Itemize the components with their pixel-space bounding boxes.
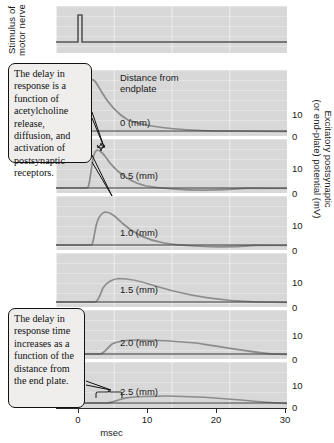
panel-distance-1_5 xyxy=(56,253,287,307)
x-axis-line xyxy=(56,408,287,409)
panel-stimulus xyxy=(56,6,287,53)
ytick-0-panel-2_0: 0 xyxy=(292,354,297,365)
ytick-10-panel-0_5: 10 xyxy=(292,163,303,174)
panel-distance-1_0 xyxy=(56,196,287,250)
distance-label-2_5: 2.5 (mm) xyxy=(120,386,158,397)
ytick-10-panel-0: 10 xyxy=(292,109,303,120)
ytick-10-panel-1_5: 10 xyxy=(292,277,303,288)
epp-trace-2_0mm xyxy=(56,310,287,359)
response-axis-label: Excitatory postsynaptic (or end-plate) p… xyxy=(312,64,334,254)
ytick-10-panel-1_0: 10 xyxy=(292,220,303,231)
distance-label-0_5: 0.5 (mm) xyxy=(120,170,158,181)
xtick-mark-30 xyxy=(285,409,286,413)
panel-distance-2_0 xyxy=(56,310,287,359)
column-header: Distance from endplate xyxy=(120,72,179,94)
ytick-0-panel-2_5: 0 xyxy=(292,402,297,413)
xtick-label-20: 20 xyxy=(211,414,222,425)
epp-trace-1_0mm xyxy=(56,196,287,250)
xtick-label-30: 30 xyxy=(280,414,291,425)
x-axis-label: msec xyxy=(0,427,331,438)
ytick-0-panel-0_5: 0 xyxy=(292,188,297,199)
ytick-0-panel-1_0: 0 xyxy=(292,245,297,256)
xtick-label-0: 0 xyxy=(75,414,80,425)
distance-label-0: 0 (mm) xyxy=(120,117,150,128)
xtick-mark-0 xyxy=(78,409,79,413)
distance-label-1_5: 1.5 (mm) xyxy=(120,284,158,295)
distance-label-2_0: 2.0 (mm) xyxy=(120,337,158,348)
ytick-10-panel-2_5: 10 xyxy=(292,380,303,391)
xtick-mark-20 xyxy=(216,409,217,413)
epp-trace-2_5mm xyxy=(56,362,287,408)
xtick-label-10: 10 xyxy=(142,414,153,425)
callout-delay-distance: The delay in response time increases as … xyxy=(8,308,85,408)
x-axis-label-text: msec xyxy=(100,427,123,438)
ytick-0-panel-0: 0 xyxy=(292,131,297,142)
distance-label-1_0: 1.0 (mm) xyxy=(120,227,158,238)
stimulus-trace xyxy=(56,6,287,53)
stimulus-axis-label: Stimulus of motor nerve xyxy=(0,0,45,60)
callout-delay-cause: The delay in response is a function of a… xyxy=(8,63,92,163)
ytick-0-panel-1_5: 0 xyxy=(292,302,297,313)
xtick-mark-10 xyxy=(147,409,148,413)
epp-trace-1_5mm xyxy=(56,253,287,307)
panel-distance-2_5 xyxy=(56,362,287,408)
ytick-10-panel-2_0: 10 xyxy=(292,330,303,341)
